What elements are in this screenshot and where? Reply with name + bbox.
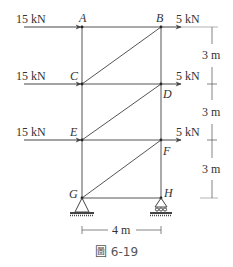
dim-label-v2: 3 m: [202, 105, 221, 119]
load-label-D: 5 kN: [176, 69, 200, 83]
figure-caption: 圖 6-19: [95, 245, 138, 259]
load-label-B: 5 kN: [176, 12, 200, 26]
load-label-C: 15 kN: [16, 69, 46, 83]
node-label-D: D: [162, 87, 172, 101]
member-ED: [82, 84, 161, 140]
loads-right: [161, 27, 181, 140]
node-label-A: A: [78, 11, 87, 25]
node-label-C: C: [70, 69, 79, 83]
loads-left: [24, 27, 81, 140]
node-label-G: G: [69, 187, 78, 201]
load-label-E: 15 kN: [16, 125, 46, 139]
load-label-F: 5 kN: [176, 125, 200, 139]
dim-label-v1: 3 m: [202, 48, 221, 62]
load-label-A: 15 kN: [16, 12, 46, 26]
node-label-B: B: [156, 11, 164, 25]
dim-label-h: 4 m: [112, 223, 131, 237]
truss-diagram: 15 kN 15 kN 15 kN 5 kN 5 kN 5 kN A B C D…: [0, 0, 233, 267]
node-label-E: E: [69, 125, 78, 139]
member-GF: [82, 140, 161, 198]
node-label-H: H: [163, 186, 174, 200]
member-CB: [82, 27, 161, 84]
truss-members: [82, 27, 161, 198]
roller-support-icon: [150, 198, 172, 216]
node-label-F: F: [162, 144, 171, 158]
dim-label-v3: 3 m: [202, 162, 221, 176]
